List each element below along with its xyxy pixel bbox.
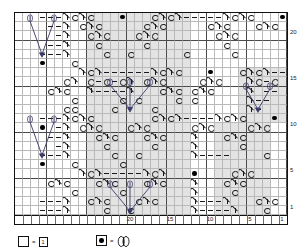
legend-bead-dot: = bbox=[96, 235, 131, 246]
column-number-label: 15 bbox=[166, 216, 174, 222]
column-number-axis: 20151051 bbox=[14, 215, 286, 224]
legend-blank-square: = 1 bbox=[18, 236, 48, 247]
bottom-ruler: 20151051 bbox=[14, 215, 288, 225]
legend-equals-2: = bbox=[110, 238, 114, 244]
bead-dot-icon bbox=[96, 235, 107, 246]
column-number-label: 5 bbox=[246, 216, 254, 222]
stitch-gather-symbol bbox=[107, 76, 153, 115]
row-number-label: 5 bbox=[290, 167, 293, 173]
legend-blank-label: 1 bbox=[39, 237, 48, 247]
knitting-chart: 20151051 bbox=[14, 12, 288, 216]
column-number-label: 1 bbox=[278, 216, 286, 222]
legend-equals: = bbox=[32, 239, 36, 245]
stitch-gather-symbol bbox=[107, 178, 153, 217]
row-number-label: 15 bbox=[290, 75, 297, 81]
row-number-label: 10 bbox=[290, 121, 297, 127]
gather-symbol-overlays bbox=[14, 12, 286, 214]
row-number-label: 20 bbox=[290, 29, 297, 35]
column-number-label: 10 bbox=[206, 216, 214, 222]
chart-legend: = 1 = bbox=[0, 232, 302, 252]
row-number-label: 1 bbox=[290, 204, 293, 210]
stitch-gather-symbol bbox=[27, 12, 57, 60]
blank-square-icon bbox=[18, 236, 29, 247]
stitch-gather-symbol bbox=[27, 113, 57, 161]
column-number-label: 20 bbox=[126, 216, 134, 222]
bead-glyph-icon bbox=[117, 236, 131, 246]
stitch-gather-symbol bbox=[243, 80, 273, 115]
